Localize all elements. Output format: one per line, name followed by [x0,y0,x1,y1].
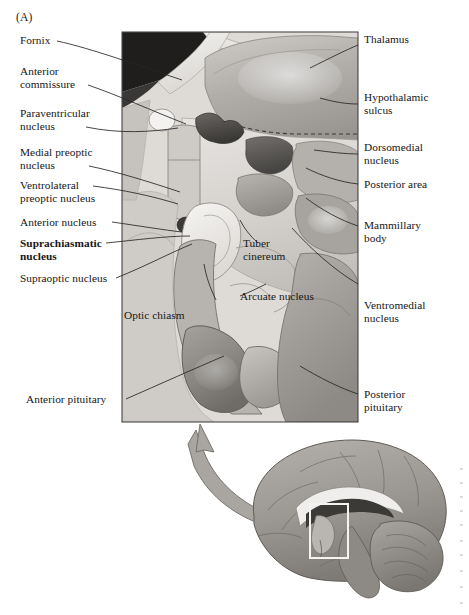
brain-inset-illustration [253,440,446,598]
label-ventrolateral-preoptic-nucleus: Ventrolateral preoptic nucleus [20,179,95,206]
label-supraoptic-nucleus: Supraoptic nucleus [20,272,107,285]
label-anterior-commissure: Anterior commissure [20,65,75,92]
label-medial-preoptic-nucleus: Medial preoptic nucleus [20,146,93,173]
label-tuber-cinereum: Tuber cinereum [243,237,285,264]
label-arcuate-nucleus: Arcuate nucleus [240,290,314,303]
magnification-callout-arrow [188,424,332,533]
label-suprachiasmatic-nucleus: Suprachiasmatic nucleus [20,237,102,264]
scan-edge-artifact [457,462,466,612]
label-posterior-area: Posterior area [364,178,427,191]
leader-lines-right [292,45,358,394]
plate-border [122,32,358,422]
label-posterior-pituitary: Posterior pituitary [364,388,405,415]
label-hypothalamic-sulcus: Hypothalamic sulcus [364,91,429,118]
label-dorsomedial-nucleus: Dorsomedial nucleus [364,141,423,168]
inset-locator-box [310,504,348,558]
label-ventromedial-nucleus: Ventromedial nucleus [364,299,425,326]
label-anterior-nucleus: Anterior nucleus [20,216,96,229]
label-fornix: Fornix [20,34,50,47]
label-mammillary-body: Mammillary body [364,219,421,246]
label-thalamus: Thalamus [364,33,409,46]
label-optic-chiasm: Optic chiasm [124,309,185,322]
label-paraventricular-nucleus: Paraventricular nucleus [20,107,90,134]
panel-letter: (A) [16,11,33,23]
figure-root: (A) [0,0,469,615]
label-anterior-pituitary: Anterior pituitary [26,393,106,406]
